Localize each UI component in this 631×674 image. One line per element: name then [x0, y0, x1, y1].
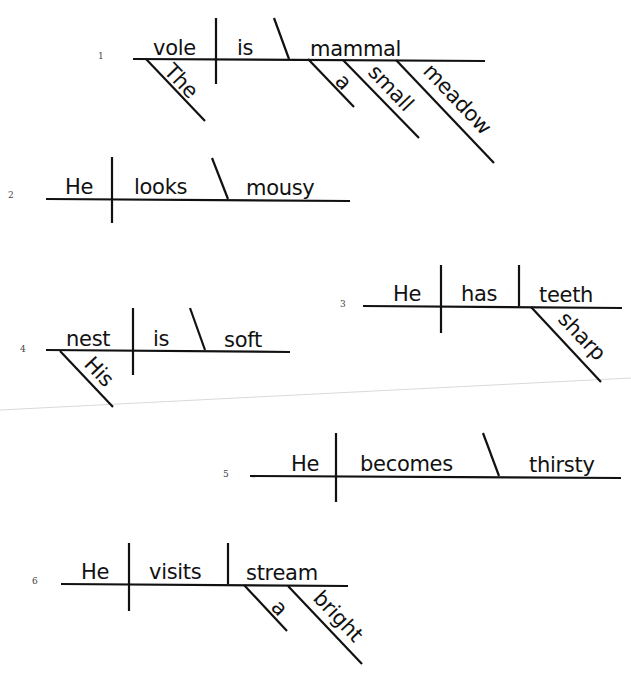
diagram-sentence-2: 2 He looks mousy — [8, 157, 350, 223]
diagram-sentence-1: 1 vole is mammal The a small meadow — [98, 18, 496, 163]
modifier-word: sharp — [553, 307, 610, 365]
modifier-word: His — [79, 352, 118, 391]
subject-word: nest — [66, 327, 110, 351]
modifier-word: a — [266, 595, 292, 621]
sentence-diagrams-canvas: 1 vole is mammal The a small meadow 2 He… — [0, 0, 631, 674]
verb-word: has — [461, 282, 497, 306]
complement-word: mousy — [246, 176, 314, 200]
modifier-word: meadow — [418, 59, 496, 139]
subject-word: He — [393, 282, 421, 306]
sentence-number: 4 — [20, 344, 26, 354]
sentence-number: 5 — [223, 469, 229, 479]
verb-word: becomes — [360, 452, 453, 476]
diagram-sentence-3: 3 He has teeth sharp — [340, 265, 622, 382]
verb-word: is — [153, 327, 169, 351]
verb-word: visits — [149, 560, 201, 584]
diagram-sentence-6: 6 He visits stream a bright — [32, 543, 368, 664]
verb-word: looks — [134, 175, 187, 199]
subject-word: vole — [153, 36, 196, 60]
subject-word: He — [81, 560, 109, 584]
subject-word: He — [65, 175, 93, 199]
diagram-sentence-5: 5 He becomes thirsty — [223, 433, 621, 502]
sentence-number: 1 — [98, 51, 104, 61]
sentence-number: 3 — [340, 299, 346, 309]
sentence-number: 6 — [32, 576, 38, 586]
complement-word: stream — [246, 561, 318, 585]
sentence-number: 2 — [8, 190, 14, 200]
complement-word: mammal — [310, 37, 401, 61]
complement-word: thirsty — [529, 453, 595, 477]
complement-slant-divider — [212, 158, 228, 199]
diagram-sentence-4: 4 nest is soft His — [20, 308, 290, 407]
complement-word: teeth — [539, 283, 593, 307]
verb-word: is — [237, 36, 253, 60]
complement-word: soft — [224, 328, 262, 352]
complement-slant-divider — [190, 308, 205, 350]
modifier-word: a — [330, 69, 356, 95]
complement-slant-divider — [274, 18, 289, 59]
subject-word: He — [291, 452, 319, 476]
modifier-word: The — [159, 58, 203, 103]
complement-slant-divider — [483, 433, 499, 476]
